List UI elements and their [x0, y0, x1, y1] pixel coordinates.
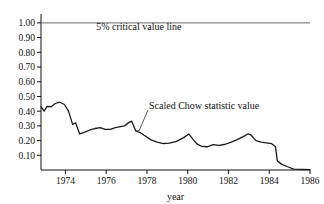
chart-figure: 1.000.900.800.700.600.500.400.300.200.10…	[0, 0, 324, 204]
x-tick-label: 1974	[56, 176, 75, 186]
y-tick-label: 0.10	[18, 151, 35, 161]
x-tick-label: 1976	[97, 176, 116, 186]
x-tick-label: 1980	[178, 176, 197, 186]
chow-annotation-leader-line	[136, 110, 148, 131]
y-tick-label: 0.80	[18, 48, 35, 58]
chart-canvas: 1.000.900.800.700.600.500.400.300.200.10…	[0, 0, 324, 204]
y-tick-label: 0.20	[18, 136, 35, 146]
y-tick-label: 0.60	[18, 77, 35, 87]
y-tick-label: 0.70	[18, 62, 35, 72]
chow-statistic-line	[41, 102, 310, 170]
x-tick-label: 1984	[260, 176, 279, 186]
x-tick-label: 1982	[219, 176, 238, 186]
y-tick-label: 0.40	[18, 107, 35, 117]
y-tick-label: 0.30	[18, 121, 35, 131]
x-tick-label: 1978	[137, 176, 156, 186]
y-tick-label: 0.90	[18, 33, 35, 43]
critical-value-annotation: 5% critical value line	[96, 21, 182, 32]
chow-statistic-annotation: Scaled Chow statistic value	[149, 100, 260, 111]
y-tick-label: 0.50	[18, 92, 35, 102]
x-tick-label: 1986	[301, 176, 320, 186]
y-tick-label: 1.00	[18, 18, 35, 28]
x-axis-title: year	[167, 191, 185, 202]
